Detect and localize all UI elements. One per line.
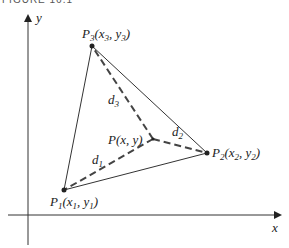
p-label: P(x, y)	[107, 132, 143, 147]
point-p3	[90, 44, 95, 49]
point-p	[152, 138, 155, 141]
triangle-distance-diagram: y x P3(x3, y3) P2(x2, y2) P1(x1, y1) P(x…	[0, 0, 289, 248]
point-p2	[205, 151, 210, 156]
p2-label: P2(x2, y2)	[211, 145, 260, 162]
triangle	[64, 46, 207, 190]
y-axis-label: y	[34, 10, 42, 25]
point-p1	[62, 188, 67, 193]
d3-label: d3	[108, 92, 120, 109]
d1-label: d1	[92, 152, 103, 169]
p1-label: P1(x1, y1)	[49, 194, 98, 211]
x-axis-label: x	[271, 220, 278, 235]
d2-label: d2	[172, 124, 184, 141]
p3-label: P3(x3, y3)	[81, 26, 130, 43]
d3-line	[92, 46, 153, 139]
